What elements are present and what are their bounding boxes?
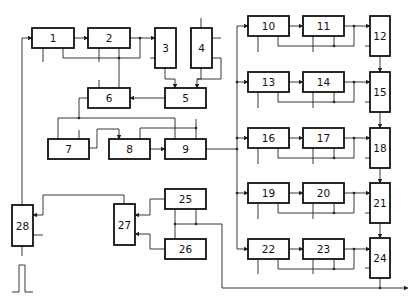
block-16: 16 (248, 128, 289, 148)
pulse-signal-icon (12, 265, 33, 292)
block-28: 28 (12, 205, 33, 246)
block-10: 10 (248, 16, 289, 36)
block-23: 23 (303, 239, 344, 259)
block-6: 6 (88, 88, 130, 108)
block-3: 3 (155, 28, 176, 68)
block-25: 25 (165, 189, 206, 209)
svg-text:22: 22 (262, 243, 275, 255)
block-7: 7 (48, 139, 89, 159)
svg-text:27: 27 (118, 219, 131, 231)
block-20: 20 (303, 183, 344, 203)
svg-text:12: 12 (373, 30, 386, 42)
svg-text:7: 7 (65, 143, 72, 155)
block-27: 27 (114, 204, 135, 245)
block-8: 8 (109, 139, 150, 159)
block-13: 13 (248, 72, 289, 92)
svg-text:8: 8 (126, 143, 133, 155)
svg-text:2: 2 (106, 32, 113, 44)
block-11: 11 (303, 16, 344, 36)
svg-text:20: 20 (317, 187, 330, 199)
block-diagram: 1 2 3 4 5 6 7 8 9 10 11 12 13 14 15 16 1… (0, 0, 415, 302)
svg-text:23: 23 (317, 243, 330, 255)
svg-text:13: 13 (262, 76, 275, 88)
svg-text:26: 26 (179, 243, 193, 255)
block-24: 24 (370, 238, 390, 278)
svg-text:28: 28 (16, 220, 29, 232)
svg-text:3: 3 (162, 42, 169, 54)
svg-text:15: 15 (373, 86, 386, 98)
block-14: 14 (303, 72, 344, 92)
block-19: 19 (248, 183, 289, 203)
block-4: 4 (191, 28, 212, 68)
svg-text:5: 5 (182, 92, 189, 104)
svg-text:6: 6 (106, 92, 113, 104)
block-5: 5 (165, 88, 206, 108)
block-26: 26 (165, 239, 206, 259)
svg-text:11: 11 (317, 20, 330, 32)
block-12: 12 (370, 16, 390, 56)
svg-text:24: 24 (373, 252, 387, 264)
svg-text:16: 16 (262, 132, 276, 144)
svg-text:9: 9 (182, 143, 189, 155)
svg-text:21: 21 (373, 197, 386, 209)
block-15: 15 (370, 72, 390, 112)
svg-text:17: 17 (317, 132, 330, 144)
block-1: 1 (32, 28, 74, 48)
block-21: 21 (370, 183, 390, 223)
svg-text:4: 4 (198, 42, 205, 54)
block-2: 2 (88, 28, 130, 48)
svg-text:10: 10 (262, 20, 275, 32)
block-17: 17 (303, 128, 344, 148)
block-22: 22 (248, 239, 289, 259)
svg-text:14: 14 (317, 76, 331, 88)
svg-text:19: 19 (262, 187, 275, 199)
block-9: 9 (165, 139, 206, 159)
svg-text:25: 25 (179, 193, 192, 205)
block-18: 18 (370, 128, 390, 168)
svg-text:18: 18 (373, 142, 386, 154)
svg-text:1: 1 (50, 32, 57, 44)
